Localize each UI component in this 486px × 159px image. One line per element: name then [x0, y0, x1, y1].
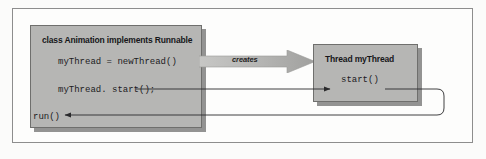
connector-lines-group: [0, 0, 486, 159]
diagram-canvas: class Animation implements Runnable myTh…: [0, 0, 486, 159]
connector-start-def-to-run: [65, 89, 444, 115]
